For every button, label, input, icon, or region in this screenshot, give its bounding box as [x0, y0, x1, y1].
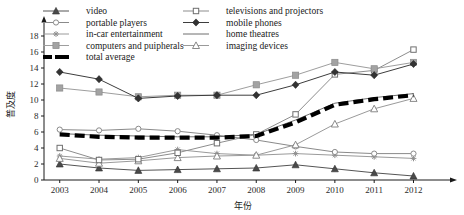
marker-square-open [136, 157, 141, 162]
legend-item-label: computers and puipherals [86, 41, 184, 51]
y-tick-label: 10 [30, 95, 40, 105]
series-line [60, 164, 414, 176]
series-imaging-devices [56, 95, 417, 166]
marker-square-filled [57, 85, 63, 91]
marker-square-open [411, 47, 416, 52]
legend-item-label: video [86, 6, 107, 16]
marker-circle-open [96, 128, 101, 133]
legend-item-televisions-and-projectors[interactable]: televisions and projectors [183, 6, 323, 16]
legend-item-label: total average [86, 52, 135, 62]
series-computers-and-puipherals [57, 59, 417, 100]
y-axis-title: 普及度 [5, 91, 16, 118]
y-tick-label: 6 [34, 127, 39, 137]
series-total-average [60, 95, 414, 137]
marker-circle-open [332, 149, 337, 154]
legend-item-computers-and-puipherals[interactable]: computers and puipherals [43, 41, 184, 51]
marker-cross [293, 151, 299, 157]
marker-square-open [193, 8, 198, 13]
x-axis-arrow [450, 177, 457, 182]
series-line [60, 62, 414, 96]
y-tick-label: 4 [34, 143, 39, 153]
legend-item-label: televisions and projectors [226, 6, 323, 16]
legend: videotelevisions and projectorsportable … [43, 6, 323, 62]
x-tick-label: 2003 [51, 185, 70, 195]
y-tick-label: 12 [30, 79, 39, 89]
marker-square-filled [371, 66, 377, 72]
x-tick-label: 2010 [326, 185, 345, 195]
marker-square-open [214, 141, 219, 146]
series-line [60, 150, 414, 160]
y-tick-label: 14 [30, 63, 40, 73]
y-tick-label: 18 [30, 31, 40, 41]
marker-square-filled [53, 42, 59, 48]
legend-item-label: mobile phones [226, 18, 282, 28]
marker-circle-open [136, 126, 141, 131]
legend-item-label: in-car entertainment [86, 29, 163, 39]
y-tick-label: 0 [34, 175, 39, 185]
marker-square-filled [332, 59, 338, 65]
marker-cross [53, 31, 59, 37]
y-tick-label: 16 [30, 47, 40, 57]
marker-square-open [293, 112, 298, 117]
marker-diamond-filled [56, 68, 63, 75]
x-tick-label: 2011 [365, 185, 383, 195]
line-chart: 0246810121416182003200420052006200720082… [0, 0, 464, 215]
marker-square-open [175, 150, 180, 155]
chart-canvas: 0246810121416182003200420052006200720082… [0, 0, 464, 215]
marker-square-filled [253, 82, 259, 88]
y-tick-label: 8 [34, 111, 39, 121]
marker-square-filled [96, 89, 102, 95]
legend-item-in-car-entertainment[interactable]: in-car entertainment [43, 29, 163, 39]
marker-circle-open [372, 151, 377, 156]
marker-square-filled [292, 72, 298, 78]
legend-item-home-theatres[interactable]: home theatres [183, 29, 279, 39]
x-tick-label: 2006 [169, 185, 188, 195]
legend-item-mobile-phones[interactable]: mobile phones [183, 18, 282, 28]
series-line [60, 129, 414, 154]
series-portable-players [57, 126, 416, 156]
legend-item-label: home theatres [226, 29, 279, 39]
marker-triangle-open [292, 141, 299, 148]
marker-triangle-open [331, 120, 338, 127]
y-axis-arrow [41, 16, 46, 23]
x-tick-label: 2012 [404, 185, 422, 195]
marker-circle-open [411, 151, 416, 156]
marker-circle-open [175, 129, 180, 134]
marker-diamond-filled [292, 81, 299, 88]
marker-diamond-filled [253, 92, 260, 99]
marker-square-open [57, 145, 62, 150]
marker-circle-open [53, 20, 58, 25]
y-tick-label: 2 [34, 159, 39, 169]
x-tick-label: 2008 [247, 185, 266, 195]
marker-diamond-filled [193, 19, 200, 26]
series-televisions-and-projectors [57, 47, 416, 163]
marker-circle-open [57, 127, 62, 132]
series-video [56, 160, 417, 179]
legend-item-portable-players[interactable]: portable players [43, 18, 147, 28]
x-axis-title: 年份 [234, 200, 252, 211]
x-tick-label: 2009 [287, 185, 306, 195]
legend-item-total-average[interactable]: total average [43, 52, 135, 62]
marker-diamond-filled [96, 76, 103, 83]
series-line [60, 95, 414, 137]
legend-item-label: portable players [86, 18, 147, 28]
legend-item-imaging-devices[interactable]: imaging devices [183, 41, 288, 51]
marker-square-open [96, 157, 101, 162]
x-tick-label: 2007 [208, 185, 227, 195]
legend-item-label: imaging devices [226, 41, 288, 51]
marker-circle-open [254, 137, 259, 142]
legend-item-video[interactable]: video [43, 6, 107, 16]
x-tick-label: 2005 [129, 185, 148, 195]
x-tick-label: 2004 [90, 185, 109, 195]
